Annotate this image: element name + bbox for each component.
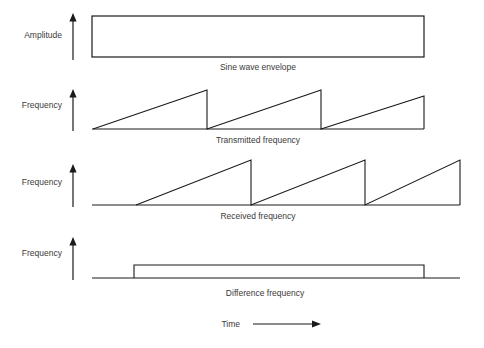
panel-2-y-axis-label: Frequency [22, 100, 63, 110]
fmcw-waveform-diagram: Amplitude Sine wave envelope Frequency T… [0, 0, 484, 348]
panel-sine-wave-envelope: Amplitude Sine wave envelope [24, 13, 424, 72]
arrow-right-icon [312, 320, 321, 327]
panel-received-frequency: Frequency Received frequency [22, 160, 460, 221]
panel-2-sawtooth-waveform [93, 90, 424, 129]
arrow-up-icon [69, 164, 76, 173]
arrow-up-icon [69, 89, 76, 98]
panel-4-y-axis-arrow [69, 237, 76, 280]
panel-2-caption: Transmitted frequency [216, 135, 301, 145]
panel-3-y-axis-label: Frequency [22, 177, 63, 187]
panel-difference-frequency: Frequency Difference frequency [22, 237, 460, 298]
panel-1-y-axis-label: Amplitude [24, 30, 62, 40]
panel-4-y-axis-label: Frequency [22, 248, 63, 258]
panel-4-caption: Difference frequency [226, 288, 305, 298]
time-axis: Time [221, 319, 321, 329]
panel-1-envelope-rectangle [92, 16, 424, 57]
panel-3-caption: Received frequency [220, 211, 296, 221]
arrow-up-icon [69, 13, 76, 22]
panel-4-pulse-waveform [134, 265, 424, 278]
panel-3-y-axis-arrow [69, 164, 76, 207]
time-axis-label: Time [221, 319, 240, 329]
arrow-up-icon [69, 237, 76, 246]
panel-2-y-axis-arrow [69, 89, 76, 131]
panel-1-y-axis-arrow [69, 13, 76, 60]
panel-transmitted-frequency: Frequency Transmitted frequency [22, 89, 424, 145]
waveform-figure: Amplitude Sine wave envelope Frequency T… [0, 0, 484, 348]
panel-3-sawtooth-waveform-delayed [136, 160, 460, 205]
panel-1-caption: Sine wave envelope [220, 62, 296, 72]
